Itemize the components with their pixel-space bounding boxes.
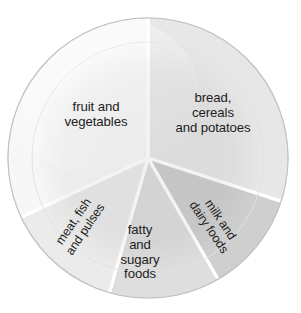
- plate-gloss-highlight: [8, 14, 200, 178]
- eatwell-plate-figure: fruit and vegetables bread, cereals and …: [0, 0, 301, 313]
- pie-chart-svg: [0, 0, 301, 313]
